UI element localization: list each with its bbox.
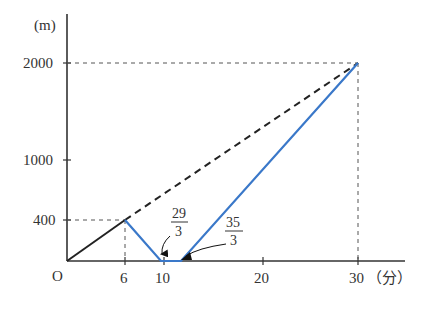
solid-black-line <box>67 220 125 261</box>
y-label-1000: 1000 <box>23 152 53 168</box>
x-label-6: 6 <box>120 270 128 286</box>
frac-35-3-den: 3 <box>230 233 237 248</box>
dashed-black-line <box>125 63 358 220</box>
x-label-20: 20 <box>254 270 269 286</box>
frac-35-3-num: 35 <box>226 215 240 230</box>
x-label-30: 30 <box>349 270 364 286</box>
x-label-10: 10 <box>155 270 170 286</box>
y-label-2000: 2000 <box>23 55 53 71</box>
y-unit-label: (m) <box>34 17 56 34</box>
frac-29-3-den: 3 <box>175 224 182 239</box>
distance-time-graph: (m) 2000 1000 400 O 6 10 20 30 （分） 29 3 … <box>0 0 427 313</box>
arrow-29-3 <box>162 236 170 254</box>
x-unit-label: （分） <box>367 270 412 286</box>
y-label-400: 400 <box>33 212 56 228</box>
origin-label: O <box>52 268 63 284</box>
frac-29-3-num: 29 <box>172 206 186 221</box>
